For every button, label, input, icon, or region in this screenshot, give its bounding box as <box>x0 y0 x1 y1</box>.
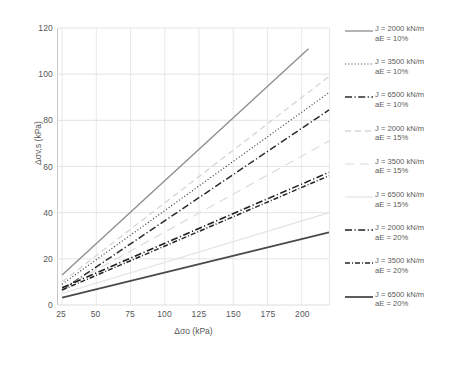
legend-item[interactable]: J = 3500 kN/maE = 15% <box>345 157 453 181</box>
y-tick-label: 100 <box>19 69 53 79</box>
series-line <box>62 110 329 290</box>
legend-swatch-3 <box>345 91 373 103</box>
chart-figure: 020406080100120 255075100125150175200 Δσ… <box>0 0 455 348</box>
series-line <box>62 176 329 290</box>
series-line <box>62 213 329 294</box>
legend-swatch-8 <box>345 257 373 269</box>
legend-item[interactable]: J = 2000 kN/maE = 20% <box>345 223 453 247</box>
legend-label: J = 3500 kN/maE = 20% <box>373 256 424 275</box>
legend-item[interactable]: J = 3500 kN/maE = 20% <box>345 256 453 280</box>
legend-label: J = 2000 kN/maE = 20% <box>373 223 424 242</box>
legend-swatch-4 <box>345 125 373 137</box>
legend-item[interactable]: J = 6500 kN/maE = 20% <box>345 290 453 314</box>
legend-swatch-2 <box>345 58 373 70</box>
legend-swatch-7 <box>345 224 373 236</box>
legend-swatch-6 <box>345 191 373 203</box>
x-axis-title: Δσo (kPa) <box>57 326 330 336</box>
legend-label: J = 3500 kN/maE = 15% <box>373 157 424 176</box>
series-line <box>62 172 329 287</box>
series-lines <box>58 28 329 305</box>
legend-label: J = 3500 kN/maE = 10% <box>373 57 424 76</box>
legend-item[interactable]: J = 6500 kN/maE = 10% <box>345 90 453 114</box>
figure-caption <box>4 350 454 364</box>
x-tick-label: 200 <box>282 309 322 319</box>
legend-item[interactable]: J = 2000 kN/maE = 10% <box>345 24 453 48</box>
legend-swatch-1 <box>345 25 373 37</box>
x-axis-ticks: 255075100125150175200 <box>57 309 330 323</box>
series-line <box>62 232 329 297</box>
legend-item[interactable]: J = 2000 kN/maE = 15% <box>345 124 453 148</box>
y-tick-label: 40 <box>19 208 53 218</box>
legend-label: J = 6500 kN/maE = 20% <box>373 290 424 309</box>
legend-label: J = 6500 kN/maE = 10% <box>373 90 424 109</box>
series-line <box>62 49 308 275</box>
series-line <box>62 76 329 281</box>
legend-label: J = 6500 kN/maE = 15% <box>373 190 424 209</box>
plot-area <box>57 28 330 305</box>
legend-swatch-5 <box>345 158 373 170</box>
legend-swatch-9 <box>345 291 373 303</box>
legend-label: J = 2000 kN/maE = 10% <box>373 24 424 43</box>
series-line <box>62 93 329 285</box>
y-tick-label: 120 <box>19 23 53 33</box>
y-axis-title: Δσv,s (kPa) <box>33 83 43 203</box>
legend-item[interactable]: J = 3500 kN/maE = 10% <box>345 57 453 81</box>
series-line <box>62 141 329 289</box>
legend-item[interactable]: J = 6500 kN/maE = 15% <box>345 190 453 214</box>
legend-label: J = 2000 kN/maE = 15% <box>373 124 424 143</box>
chart-legend: J = 2000 kN/maE = 10%J = 3500 kN/maE = 1… <box>345 24 453 324</box>
y-tick-label: 20 <box>19 254 53 264</box>
